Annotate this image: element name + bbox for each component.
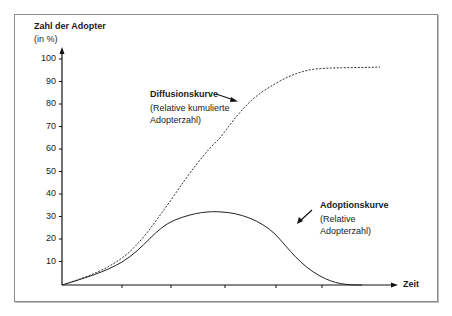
x-axis-title: Zeit [403, 279, 419, 290]
y-tick-label: 50 [32, 166, 56, 176]
chart-plot [0, 0, 452, 316]
y-axis-arrow-icon [60, 47, 65, 54]
diffusion-desc-2: Adopterzahl) [150, 115, 201, 126]
y-tick-label: 30 [32, 211, 56, 221]
y-axis-unit: (in %) [34, 34, 58, 45]
y-tick-label: 20 [32, 233, 56, 243]
diffusion-curve [62, 67, 380, 285]
diffusion-arrow-icon [230, 97, 238, 102]
y-tick-label: 60 [32, 143, 56, 153]
diffusion-label: Diffusionskurve [150, 89, 218, 100]
y-axis-title: Zahl der Adopter [34, 21, 106, 32]
y-tick-label: 40 [32, 188, 56, 198]
diffusion-desc-1: (Relative kumulierte [150, 103, 230, 114]
y-tick-label: 70 [32, 121, 56, 131]
adoption-arrow-icon [297, 217, 303, 224]
y-tick-label: 100 [32, 53, 56, 63]
adoption-curve [62, 212, 362, 285]
x-axis-arrow-icon [391, 283, 398, 288]
adoption-desc-1: (Relative [320, 214, 356, 225]
y-tick-label: 80 [32, 98, 56, 108]
adoption-label: Adoptionskurve [320, 200, 389, 211]
adoption-desc-2: Adopterzahl) [320, 226, 371, 237]
y-tick-label: 10 [32, 256, 56, 266]
adoption-pointer [300, 210, 312, 221]
y-tick-label: 90 [32, 76, 56, 86]
